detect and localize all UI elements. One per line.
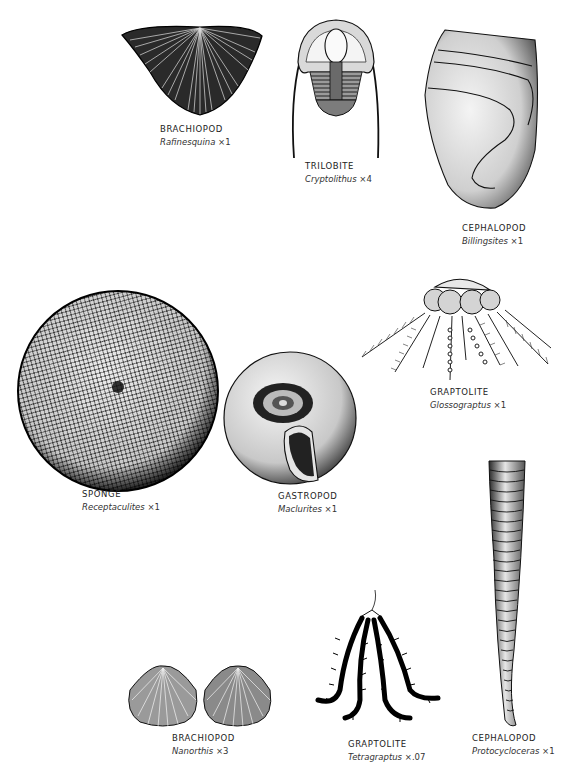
specimen-genus: Tetragraptus bbox=[348, 752, 402, 762]
specimen-magnification: ×.07 bbox=[405, 752, 426, 762]
specimen-group: GRAPTOLITE bbox=[348, 738, 425, 751]
caption-graptolite-tetragraptus: GRAPTOLITE Tetragraptus ×.07 bbox=[348, 738, 425, 764]
